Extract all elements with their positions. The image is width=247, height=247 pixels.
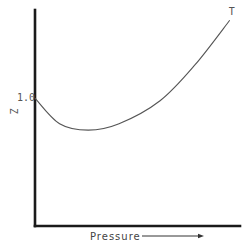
y-tick-label: 1.0 (17, 92, 35, 103)
x-axis-arrowhead-icon (198, 234, 204, 238)
series-end-label: T (229, 6, 235, 17)
x-axis-label: Pressure (90, 231, 141, 242)
series-layer: T (35, 6, 235, 130)
series-line-t (35, 20, 230, 130)
y-axis-label: Z (8, 108, 19, 114)
chart: T 1.0 Z Pressure (0, 0, 247, 247)
